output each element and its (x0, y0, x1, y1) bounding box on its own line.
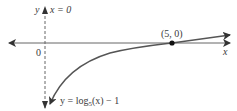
x-axis-label: x (222, 46, 228, 57)
point-label: (5, 0) (161, 28, 183, 40)
y-axis-arrow-up-icon (42, 6, 48, 14)
y-axis-arrow-down-icon (42, 101, 48, 109)
log-graph: y x = 0 0 (5, 0) x y = log5(x) − 1 (0, 0, 237, 111)
log-curve (50, 35, 230, 104)
y-axis-label: y (34, 4, 40, 15)
curve-label: y = log5(x) − 1 (60, 95, 119, 108)
origin-label: 0 (36, 47, 41, 58)
asymptote-label: x = 0 (49, 4, 71, 15)
x-intercept-point (169, 40, 174, 45)
